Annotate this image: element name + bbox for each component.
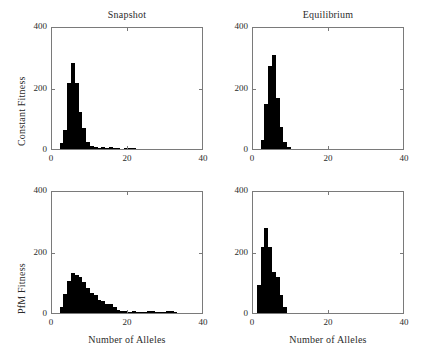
x-tick-label: 0 [39,317,63,327]
y-tick-label: 400 [21,21,47,31]
y-tick-mark [51,253,55,254]
panel-bottom-right: Number of Alleles 020040002040 [212,178,423,358]
row-label-pfm-fitness: PfM Fitness [16,263,27,314]
y-tick-mark [400,89,404,90]
x-tick-mark [127,27,128,31]
x-tick-label: 20 [115,317,139,327]
x-tick-label: 40 [392,153,416,163]
panel-top-left: Snapshot Constant Fitness 020040002040 [0,0,212,178]
y-tick-label: 400 [21,185,47,195]
x-tick-mark [127,146,128,150]
bars-bottom-left [52,192,202,313]
x-tick-label: 40 [392,317,416,327]
histogram-bar [117,148,121,149]
y-tick-label: 200 [21,247,47,257]
plot-area-bottom-right [252,191,404,314]
panel-title-snapshot-top: Snapshot [51,9,203,20]
y-tick-mark [51,89,55,90]
y-tick-label: 200 [222,83,248,93]
y-tick-mark [199,253,203,254]
y-tick-label: 200 [222,247,248,257]
y-tick-mark [252,253,256,254]
x-tick-label: 0 [240,317,264,327]
y-tick-mark [199,89,203,90]
histogram-bar [132,148,136,149]
y-tick-label: 400 [222,21,248,31]
histogram-bar [283,307,287,313]
histogram-bar [287,147,291,149]
plot-area-top-right [252,27,404,150]
bars-top-right [253,28,403,149]
y-tick-mark [252,89,256,90]
panel-bottom-left: PfM Fitness Number of Alleles 0200400020… [0,178,212,358]
xlabel-bottom-right: Number of Alleles [252,334,404,345]
y-tick-mark [400,253,404,254]
x-tick-label: 20 [316,317,340,327]
plot-area-top-left [51,27,203,150]
y-tick-label: 200 [21,83,47,93]
x-tick-mark [328,191,329,195]
histogram-bar [174,312,178,313]
figure-histogram-grid: Snapshot Constant Fitness 020040002040 E… [0,0,423,358]
x-tick-mark [127,191,128,195]
x-tick-label: 0 [240,153,264,163]
x-tick-label: 20 [115,153,139,163]
x-tick-mark [328,146,329,150]
panel-top-right: Equilibrium 020040002040 [212,0,423,178]
bars-bottom-right [253,192,403,313]
x-tick-label: 20 [316,153,340,163]
y-tick-label: 400 [222,185,248,195]
x-tick-mark [127,310,128,314]
panel-title-equilibrium-top: Equilibrium [252,9,404,20]
x-tick-mark [328,310,329,314]
plot-area-bottom-left [51,191,203,314]
x-tick-label: 0 [39,153,63,163]
bars-top-left [52,28,202,149]
x-tick-mark [328,27,329,31]
xlabel-bottom-left: Number of Alleles [51,334,203,345]
